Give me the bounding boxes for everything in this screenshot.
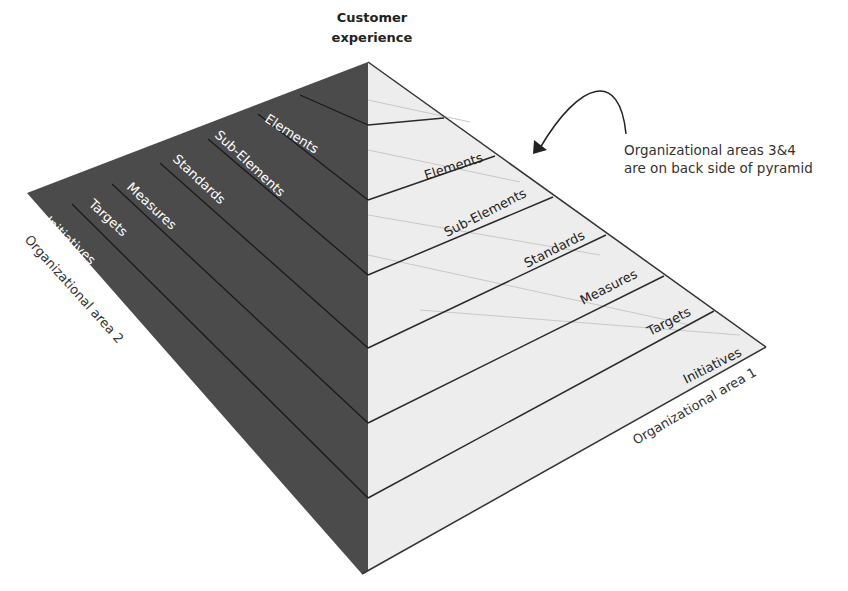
apex-label-line2: experience [332, 30, 413, 45]
pyramid-diagram: Customer experience Organizational areas… [0, 0, 848, 591]
arrow-head-icon [533, 140, 547, 154]
left-face [27, 62, 368, 574]
right-face [362, 62, 766, 574]
apex-label-line1: Customer [337, 10, 408, 25]
curved-arrow-icon [540, 91, 626, 148]
note-line2: are on back side of pyramid [624, 160, 813, 176]
note-line1: Organizational areas 3&4 [624, 142, 796, 158]
